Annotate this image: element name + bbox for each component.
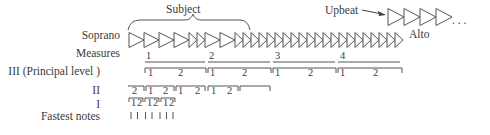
alto-note xyxy=(404,9,420,26)
soprano-note xyxy=(387,33,395,48)
soprano-line xyxy=(129,33,403,48)
subject-brace xyxy=(128,14,250,30)
soprano-note xyxy=(235,33,243,48)
soprano-note xyxy=(291,33,299,48)
soprano-note xyxy=(197,33,205,48)
soprano-note xyxy=(174,33,189,48)
soprano-note xyxy=(283,33,291,48)
alto-line xyxy=(388,9,452,26)
soprano-note xyxy=(299,33,307,48)
soprano-note xyxy=(379,33,387,48)
bracket-group xyxy=(128,62,402,102)
alto-note xyxy=(436,9,452,26)
soprano-note xyxy=(144,33,159,48)
upbeat-arrowhead xyxy=(378,11,386,16)
soprano-note xyxy=(355,33,363,48)
soprano-note xyxy=(347,33,355,48)
soprano-note xyxy=(275,33,283,48)
soprano-note xyxy=(220,33,235,48)
soprano-note xyxy=(323,33,331,48)
soprano-note xyxy=(267,33,275,48)
soprano-note xyxy=(251,33,259,48)
soprano-note xyxy=(363,33,371,48)
soprano-note xyxy=(339,33,347,48)
soprano-note xyxy=(205,33,220,48)
alto-note xyxy=(420,9,436,26)
soprano-note xyxy=(189,33,197,48)
soprano-note xyxy=(129,33,144,48)
metric-hierarchy-diagram xyxy=(0,0,490,135)
soprano-note xyxy=(395,33,403,48)
soprano-note xyxy=(243,33,251,48)
fastest-notes xyxy=(131,112,173,119)
alto-note xyxy=(388,9,404,26)
soprano-note xyxy=(259,33,267,48)
soprano-note xyxy=(159,33,174,48)
soprano-note xyxy=(331,33,339,48)
soprano-note xyxy=(307,33,315,48)
soprano-note xyxy=(315,33,323,48)
soprano-note xyxy=(371,33,379,48)
